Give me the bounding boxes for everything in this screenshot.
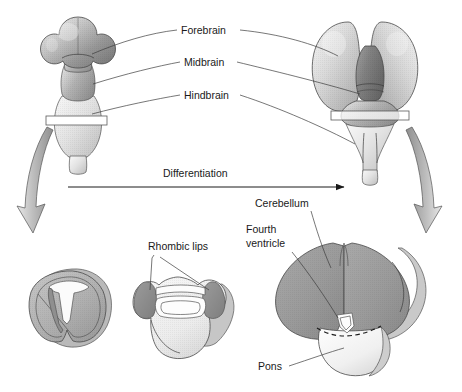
label-cerebellum: Cerebellum [255, 197, 309, 209]
label-hindbrain: Hindbrain [184, 89, 229, 101]
rhombic-lip-left [134, 282, 156, 319]
embryonic-spinal-cord-shape [69, 156, 87, 174]
leader-hindbrain-left [92, 95, 180, 114]
cross-section-early-hindbrain [29, 269, 112, 347]
embryonic-brain-illustration [41, 17, 116, 174]
label-differentiation: Differentiation [163, 167, 228, 179]
label-forebrain: Forebrain [181, 24, 226, 36]
cross-section-rhombic-lips [133, 277, 234, 359]
adult-spinal-cord-shape [362, 170, 378, 185]
left-curved-arrow [17, 127, 53, 233]
embryonic-section-plane [46, 116, 107, 125]
label-fourth-ventricle: Fourth ventricle [246, 223, 285, 249]
label-midbrain: Midbrain [184, 56, 224, 68]
rhombic-section-ventricle [155, 296, 205, 318]
label-pons: Pons [258, 360, 282, 372]
adult-brain-illustration [312, 22, 418, 185]
label-fourth-ventricle-line1: Fourth [246, 223, 277, 235]
brain-differentiation-figure: Forebrain Midbrain Hindbrain Differentia… [0, 0, 462, 392]
adult-medulla-shape [346, 124, 394, 174]
label-fourth-ventricle-line2: ventricle [246, 237, 285, 249]
cerebellum-illustration [276, 243, 426, 376]
right-curved-arrow [406, 127, 442, 233]
adult-section-plane [331, 111, 409, 120]
label-rhombic-lips: Rhombic lips [148, 240, 208, 252]
leader-midbrain-left [93, 62, 180, 84]
